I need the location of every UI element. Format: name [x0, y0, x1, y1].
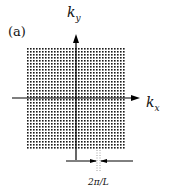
kx-label-sub: x — [154, 103, 159, 113]
ky-arrowhead-icon — [73, 34, 79, 43]
spacing-label: 2π/L — [88, 177, 109, 187]
spacing-left-arrow-icon — [90, 159, 97, 163]
ky-label: ky — [67, 4, 81, 23]
ky-label-sub: y — [75, 13, 80, 23]
spacing-right-arrow-icon — [100, 159, 107, 163]
kx-arrowhead-icon — [131, 95, 140, 101]
kx-label: kx — [146, 94, 160, 113]
panel-label: (a) — [8, 24, 26, 39]
lattice-diagram: (a) ky kx 2π/L — [0, 0, 170, 190]
